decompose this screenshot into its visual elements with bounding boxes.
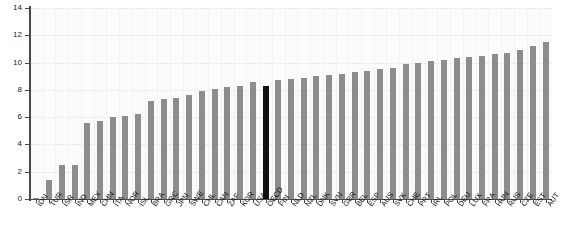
vgridline <box>157 8 158 199</box>
bar-LUX[interactable] <box>466 57 472 199</box>
vgridline <box>412 8 413 199</box>
vgridline <box>336 8 337 199</box>
y-tick-label-8: 8 <box>0 86 22 94</box>
bar-IND[interactable] <box>72 165 78 199</box>
vgridline <box>43 8 44 199</box>
bar-GBR[interactable] <box>339 74 345 200</box>
y-tick-label-2: 2 <box>0 168 22 176</box>
vgridline <box>272 8 273 199</box>
y-tick-label-0: 0 <box>0 195 22 203</box>
vgridline <box>310 8 311 199</box>
plot-area <box>30 8 552 199</box>
bar-DNK[interactable] <box>313 76 319 199</box>
vgridline <box>527 8 528 199</box>
vgridline <box>386 8 387 199</box>
bar-IRL[interactable] <box>428 61 434 199</box>
vgridline <box>234 8 235 199</box>
bar-NLD[interactable] <box>288 79 294 199</box>
bar-CAN[interactable] <box>212 89 218 200</box>
bar-HUN[interactable] <box>492 54 498 199</box>
bar-OECD[interactable] <box>263 86 269 199</box>
vgridline <box>361 8 362 199</box>
bar-KOR[interactable] <box>237 86 243 199</box>
vgridline <box>94 8 95 199</box>
gridline-12 <box>30 35 552 36</box>
y-tick-mark-6 <box>25 117 30 118</box>
bar-FIN[interactable] <box>275 80 281 199</box>
gridline-14 <box>30 8 552 9</box>
bar-SVK[interactable] <box>390 68 396 199</box>
bar-POL[interactable] <box>441 60 447 199</box>
bar-USA[interactable] <box>250 82 256 199</box>
vgridline <box>501 8 502 199</box>
vgridline <box>221 8 222 199</box>
vgridline <box>170 8 171 199</box>
bar-EST[interactable] <box>530 46 536 199</box>
y-tick-mark-10 <box>25 63 30 64</box>
vgridline <box>539 8 540 199</box>
y-tick-label-12: 12 <box>0 31 22 39</box>
vgridline <box>463 8 464 199</box>
bar-SVN[interactable] <box>326 75 332 199</box>
vgridline <box>106 8 107 199</box>
vgridline <box>297 8 298 199</box>
bar-GRC[interactable] <box>161 99 167 199</box>
y-tick-label-10: 10 <box>0 59 22 67</box>
vgridline <box>246 8 247 199</box>
bar-BEL[interactable] <box>352 72 358 199</box>
y-tick-label-14: 14 <box>0 4 22 12</box>
bar-AUT[interactable] <box>543 42 549 199</box>
vgridline <box>119 8 120 199</box>
bar-ISL[interactable] <box>135 114 141 199</box>
bar-CHL[interactable] <box>199 91 205 199</box>
vgridline <box>285 8 286 199</box>
y-tick-mark-4 <box>25 144 30 145</box>
bar-ESP[interactable] <box>364 71 370 199</box>
y-tick-mark-12 <box>25 35 30 36</box>
bar-MEX[interactable] <box>84 123 90 199</box>
bar-JPN[interactable] <box>173 98 179 199</box>
bar-PRT[interactable] <box>415 63 421 199</box>
bar-DEU[interactable] <box>454 58 460 199</box>
y-tick-mark-8 <box>25 90 30 91</box>
vgridline <box>348 8 349 199</box>
bar-ITA[interactable] <box>110 117 116 199</box>
gridline-10 <box>30 63 552 64</box>
vgridline <box>68 8 69 199</box>
bar-NOR[interactable] <box>122 116 128 199</box>
bar-SWE[interactable] <box>186 95 192 199</box>
bar-CHE[interactable] <box>403 64 409 199</box>
vgridline <box>323 8 324 199</box>
bar-AUS[interactable] <box>377 69 383 199</box>
vgridline <box>488 8 489 199</box>
vgridline <box>425 8 426 199</box>
y-tick-mark-14 <box>25 8 30 9</box>
vgridline <box>450 8 451 199</box>
vgridline <box>208 8 209 199</box>
vgridline <box>399 8 400 199</box>
vgridline <box>183 8 184 199</box>
bar-FRA[interactable] <box>479 56 485 199</box>
vgridline <box>476 8 477 199</box>
bar-NZL[interactable] <box>301 78 307 199</box>
vgridline <box>196 8 197 199</box>
vgridline <box>514 8 515 199</box>
vgridline <box>81 8 82 199</box>
vgridline <box>145 8 146 199</box>
vgridline <box>132 8 133 199</box>
y-tick-label-4: 4 <box>0 140 22 148</box>
vgridline <box>437 8 438 199</box>
bar-CHN[interactable] <box>97 121 103 199</box>
vgridline <box>374 8 375 199</box>
bar-BRA[interactable] <box>148 101 154 199</box>
bar-ZAF[interactable] <box>224 87 230 199</box>
y-tick-label-6: 6 <box>0 113 22 121</box>
y-tick-mark-2 <box>25 172 30 173</box>
y-tick-mark-0 <box>25 199 30 200</box>
bar-RUS[interactable] <box>504 53 510 199</box>
vgridline <box>259 8 260 199</box>
bar-CZE[interactable] <box>517 50 523 199</box>
vgridline <box>55 8 56 199</box>
